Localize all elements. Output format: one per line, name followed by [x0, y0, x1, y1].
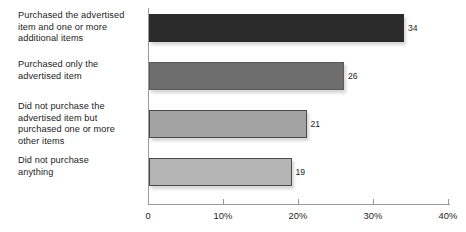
x-tick-mark-1	[223, 199, 224, 205]
bar-0[interactable]	[149, 14, 404, 42]
bar-3[interactable]	[149, 158, 292, 186]
x-tick-label-1: 10%	[214, 210, 233, 221]
x-tick-mark-2	[298, 199, 299, 205]
category-label-0: Purchased the advertised item and one or…	[18, 10, 144, 45]
plot-area: 34262119 010%20%30%40%	[148, 0, 466, 205]
bar-value-label-0: 34	[408, 23, 418, 33]
x-tick-mark-0	[148, 199, 149, 205]
category-axis-labels: Purchased the advertised item and one or…	[0, 0, 148, 205]
category-label-3: Did not purchase anything	[18, 155, 144, 178]
x-tick-mark-3	[373, 199, 374, 205]
x-tick-label-2: 20%	[289, 210, 308, 221]
x-tick-label-3: 30%	[364, 210, 383, 221]
category-label-2: Did not purchase the advertised item but…	[18, 101, 144, 147]
x-tick-label-4: 40%	[439, 210, 458, 221]
x-axis-line	[148, 204, 450, 205]
bar-value-label-1: 26	[348, 71, 358, 81]
bar-value-label-2: 21	[311, 119, 321, 129]
x-tick-mark-4	[448, 199, 449, 205]
bar-value-label-3: 19	[296, 167, 306, 177]
category-label-1: Purchased only the advertised item	[18, 59, 144, 82]
bar-chart: Purchased the advertised item and one or…	[0, 0, 466, 232]
x-tick-label-0: 0	[145, 210, 150, 221]
bar-2[interactable]	[149, 110, 307, 138]
bar-1[interactable]	[149, 62, 344, 90]
